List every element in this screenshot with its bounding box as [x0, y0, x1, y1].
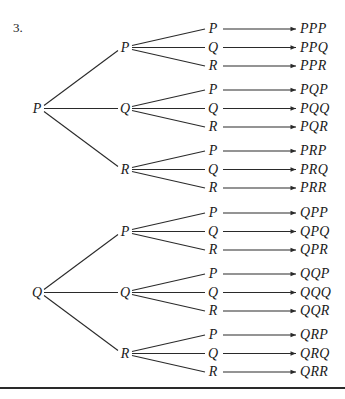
- leaf-edge: [132, 213, 205, 230]
- leaf-node: Q: [208, 286, 218, 300]
- outcome-label: PQP: [300, 83, 328, 97]
- leaf-node: P: [209, 267, 218, 281]
- leaf-node: R: [209, 59, 218, 73]
- branch-edge: [44, 296, 118, 351]
- root-node: Q: [32, 286, 42, 300]
- bottom-rule: [0, 387, 345, 389]
- leaf-edge: [132, 234, 205, 251]
- leaf-node: Q: [208, 102, 218, 116]
- branch-node: R: [121, 347, 130, 361]
- outcome-label: QPP: [300, 206, 328, 220]
- outcome-label: QRP: [300, 328, 328, 342]
- tree-edges: [0, 0, 345, 399]
- branch-node: R: [121, 163, 130, 177]
- leaf-edge: [132, 50, 205, 67]
- leaf-node: Q: [208, 163, 218, 177]
- branch-node: Q: [120, 102, 130, 116]
- root-node: P: [33, 102, 42, 116]
- leaf-edge: [132, 151, 205, 168]
- leaf-edge: [132, 90, 205, 107]
- outcome-label: PRP: [300, 144, 327, 158]
- outcome-label: PPP: [300, 22, 327, 36]
- outcome-label: PRR: [300, 181, 327, 195]
- branch-edge: [44, 112, 118, 167]
- outcome-label: QQP: [300, 267, 330, 281]
- tree-diagram: 3. PPPPPPQPPQRPPRQPPQPQPQQRPQRRPPRPQPRQR…: [0, 0, 345, 399]
- outcome-label: PQQ: [300, 102, 330, 116]
- leaf-edge: [132, 172, 205, 189]
- outcome-label: QRQ: [300, 347, 330, 361]
- leaf-node: Q: [208, 41, 218, 55]
- leaf-edge: [132, 356, 205, 373]
- leaf-node: R: [209, 365, 218, 379]
- leaf-node: R: [209, 304, 218, 318]
- leaf-edge: [132, 335, 205, 352]
- outcome-label: QQQ: [300, 286, 331, 300]
- leaf-node: P: [209, 328, 218, 342]
- branch-edge: [44, 51, 118, 106]
- outcome-label: PQR: [300, 120, 328, 134]
- leaf-edge: [132, 295, 205, 312]
- leaf-node: P: [209, 144, 218, 158]
- leaf-edge: [132, 274, 205, 291]
- outcome-label: PRQ: [300, 163, 328, 177]
- leaf-node: R: [209, 181, 218, 195]
- leaf-node: P: [209, 22, 218, 36]
- leaf-node: P: [209, 206, 218, 220]
- outcome-label: QPR: [300, 243, 328, 257]
- leaf-node: R: [209, 243, 218, 257]
- leaf-node: Q: [208, 347, 218, 361]
- branch-node: P: [121, 225, 130, 239]
- outcome-label: QPQ: [300, 225, 330, 239]
- leaf-edge: [132, 111, 205, 128]
- outcome-label: QQR: [300, 304, 330, 318]
- outcome-label: PPQ: [300, 41, 328, 55]
- leaf-node: R: [209, 120, 218, 134]
- branch-node: P: [121, 41, 130, 55]
- leaf-node: Q: [208, 225, 218, 239]
- leaf-node: P: [209, 83, 218, 97]
- outcome-label: QRR: [300, 365, 328, 379]
- outcome-label: PPR: [300, 59, 327, 73]
- leaf-edge: [132, 29, 205, 46]
- branch-edge: [44, 235, 118, 290]
- branch-node: Q: [120, 286, 130, 300]
